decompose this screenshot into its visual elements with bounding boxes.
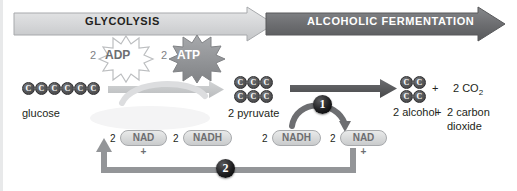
carbon-circle: C [247,90,260,103]
nad-plus-left-pill[interactable]: NAD+ [120,130,167,146]
carbon-label: C [401,77,412,88]
carbon-circle: C [400,90,413,103]
carbon-dioxide-line2: dioxide [447,120,482,132]
product-plus-top: + [432,82,438,94]
carbon-label: C [36,83,47,94]
carbon-circle: C [413,76,426,89]
carbon-circle: C [22,82,35,95]
carbon-label: C [248,91,259,102]
nad-plus-left-multiplier: 2 [110,133,116,144]
adp-multiplier: 2 [90,49,96,61]
nadh-right-label: NADH [273,131,320,145]
fermentation-reaction-arrow [290,79,397,98]
carbon-label: C [261,91,272,102]
glucose-caption: glucose [22,107,60,119]
nadh-left-label: NADH [184,131,231,145]
pyruvate-caption: 2 pyruvate [228,107,279,119]
fermentation-diagram: GLYCOLYSIS ALCOHOLIC FERMENTATION 2 ADP … [0,0,517,191]
nadh-right-multiplier: 2 [262,133,268,144]
carbon-label: C [23,83,34,94]
atp-label: ATP [177,48,200,62]
co2-label: 2 CO2 [453,82,483,97]
carbon-label: C [75,83,86,94]
nad-plus-right-multiplier: 2 [330,133,336,144]
co2-prefix: 2 CO [453,82,479,94]
fermentation-banner-label: ALCOHOLIC FERMENTATION [307,15,474,27]
carbon-circle: C [247,76,260,89]
carbon-label: C [62,83,73,94]
carbon-label: C [235,91,246,102]
nadh-left-multiplier: 2 [173,133,179,144]
atp-multiplier: 2 [161,49,167,61]
carbon-circle: C [400,76,413,89]
step-2-number: 2 [216,159,235,178]
carbon-label: C [401,91,412,102]
carbon-circle: C [260,90,273,103]
background-wash [90,106,210,130]
co2-subscript: 2 [479,88,483,97]
nad-plus-left-label: NAD+ [121,131,166,159]
carbon-circle: C [74,82,87,95]
carbon-label: C [88,83,99,94]
product-plus-bottom: + [435,106,441,118]
carbon-label: C [49,83,60,94]
glycolysis-banner-label: GLYCOLYSIS [85,15,160,27]
carbon-label: C [414,91,425,102]
step-marker-1[interactable]: 1 [313,95,332,114]
nadh-left-pill[interactable]: NADH [183,130,232,146]
carbon-circle: C [48,82,61,95]
nad-plus-right-pill[interactable]: NAD+ [340,130,387,146]
carbon-circle: C [260,76,273,89]
step-marker-2[interactable]: 2 [216,159,235,178]
carbon-circle: C [234,76,247,89]
adp-label: ADP [105,48,130,62]
nadh-right-pill[interactable]: NADH [272,130,321,146]
carbon-circle: C [61,82,74,95]
carbon-label: C [414,77,425,88]
carbon-circle: C [413,90,426,103]
alcohol-caption: 2 alcohol [393,106,437,118]
carbon-label: C [248,77,259,88]
left-edge-bar [0,0,3,191]
step-1-number: 1 [313,95,332,114]
nad-plus-right-label: NAD+ [341,131,386,159]
carbon-circle: C [35,82,48,95]
carbon-circle: C [87,82,100,95]
carbon-label: C [261,77,272,88]
carbon-circle: C [234,90,247,103]
carbon-dioxide-line1: 2 carbon [447,106,490,118]
carbon-label: C [235,77,246,88]
